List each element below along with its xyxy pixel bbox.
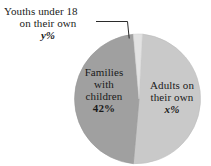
adults-value: x%: [142, 103, 202, 115]
pie-chart-figure: Youths under 18 on their own y% Families…: [0, 0, 211, 166]
callout-youths-under-18: Youths under 18 on their own y%: [2, 6, 94, 42]
adults-line-2: their own: [142, 91, 202, 103]
callout-value: y%: [2, 30, 94, 42]
callout-line-2: on their own: [2, 18, 94, 30]
families-line-1: Families: [74, 66, 134, 78]
slice-label-adults-on-their-own: Adults on their own x%: [142, 79, 202, 115]
families-line-2: with: [74, 78, 134, 90]
slice-label-families-with-children: Families with children 42%: [74, 66, 134, 114]
families-value: 42%: [74, 102, 134, 114]
families-line-3: children: [74, 90, 134, 102]
adults-line-1: Adults on: [142, 79, 202, 91]
